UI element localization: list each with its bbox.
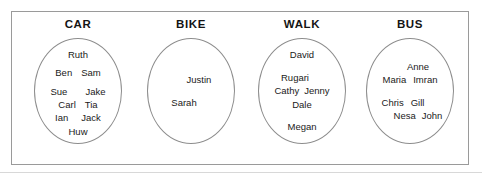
group-title-car: CAR xyxy=(26,18,130,30)
member-row: Sarah xyxy=(171,96,210,109)
member-name: Jenny xyxy=(304,84,329,97)
member-name: Chris xyxy=(382,96,404,109)
member-row: CathyJenny xyxy=(274,84,329,97)
member-name: Jake xyxy=(85,85,105,98)
member-name: Dale xyxy=(292,98,312,111)
member-name: Carl xyxy=(58,98,75,111)
member-name: Megan xyxy=(287,120,316,133)
member-name: Sue xyxy=(51,85,68,98)
member-row: Anne xyxy=(391,60,429,73)
member-name: Maria xyxy=(382,73,406,86)
group-title-bike: BIKE xyxy=(139,18,243,30)
member-name: Tia xyxy=(85,98,98,111)
group-title-bus: BUS xyxy=(358,18,462,30)
member-row: Rugari xyxy=(281,71,323,84)
member-name: Ruth xyxy=(68,48,88,61)
member-name: Anne xyxy=(407,60,429,73)
member-name: John xyxy=(422,109,443,122)
member-row: IanJack xyxy=(55,111,101,124)
member-name: Rugari xyxy=(281,71,309,84)
group-car: CAR Ruth BenSam SueJake CarlTia IanJack … xyxy=(26,18,130,150)
member-row: David xyxy=(290,48,314,61)
member-list-bus: Anne MariaImran ChrisGill NesaJohn xyxy=(366,38,454,144)
member-name: Sarah xyxy=(171,96,196,109)
member-row: Justin xyxy=(171,73,212,86)
member-name: Huw xyxy=(68,125,87,138)
member-name: Justin xyxy=(187,73,212,86)
member-row: Huw xyxy=(68,125,87,138)
member-name: Sam xyxy=(81,66,101,79)
member-row: NesaJohn xyxy=(378,109,443,122)
member-row: MariaImran xyxy=(382,73,437,86)
member-row: Dale xyxy=(292,98,312,111)
member-row: CarlTia xyxy=(58,98,97,111)
member-list-bike: Justin Sarah xyxy=(147,38,235,144)
member-name: Ben xyxy=(55,66,72,79)
member-list-walk: David Rugari CathyJenny Dale Megan xyxy=(258,38,346,144)
venn-set-diagram: CAR Ruth BenSam SueJake CarlTia IanJack … xyxy=(0,0,482,177)
member-row: BenSam xyxy=(55,66,100,79)
member-name: Gill xyxy=(411,96,425,109)
member-name: Nesa xyxy=(394,109,416,122)
member-row: Ruth xyxy=(68,48,88,61)
member-name: Ian xyxy=(55,111,68,124)
member-row: ChrisGill xyxy=(382,96,439,109)
member-list-car: Ruth BenSam SueJake CarlTia IanJack Huw xyxy=(34,38,122,146)
member-name: Imran xyxy=(413,73,437,86)
member-name: Jack xyxy=(81,111,101,124)
group-bike: BIKE Justin Sarah xyxy=(139,18,243,150)
group-walk: WALK David Rugari CathyJenny Dale Megan xyxy=(250,18,354,150)
member-name: Cathy xyxy=(274,84,299,97)
group-title-walk: WALK xyxy=(250,18,354,30)
member-row: Megan xyxy=(287,120,316,133)
group-bus: BUS Anne MariaImran ChrisGill NesaJohn xyxy=(358,18,462,150)
member-name: David xyxy=(290,48,314,61)
member-row: SueJake xyxy=(51,85,106,98)
bottom-divider xyxy=(0,172,482,173)
